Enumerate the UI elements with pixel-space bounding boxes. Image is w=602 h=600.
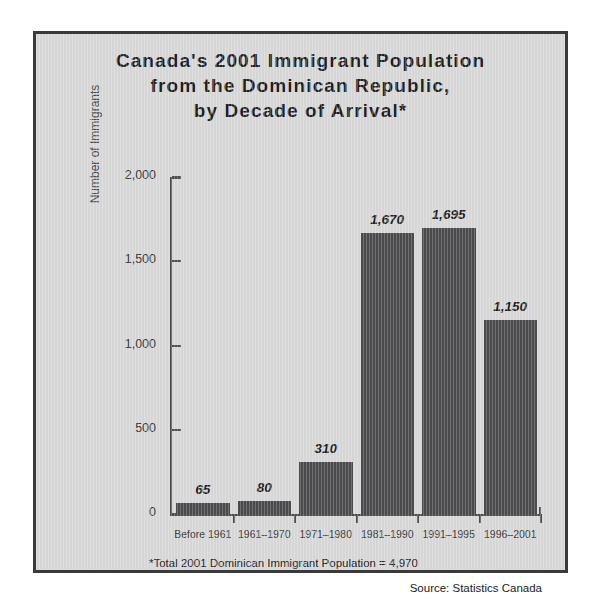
x-axis-tick-mark [479,514,481,523]
bar[interactable] [299,462,353,514]
x-axis-category-label: 1996–2001 [462,528,560,540]
y-axis-title: Number of Immigrants [88,54,102,234]
chart-panel: Canada's 2001 Immigrant Population from … [33,31,568,573]
bar-value-label: 310 [295,441,357,456]
bar[interactable] [484,320,538,514]
bar-value-label: 1,695 [418,207,480,222]
bar[interactable] [238,501,292,514]
chart-footnote: *Total 2001 Dominican Immigrant Populati… [149,557,418,569]
chart-title-line-2: from the Dominican Republic, [36,73,565,98]
bar-value-label: 65 [172,482,234,497]
x-axis-tick-mark [540,514,542,523]
chart-title-line-3: by Decade of Arrival* [36,98,565,123]
bar[interactable] [422,228,476,514]
chart-source: Source: Statistics Canada [410,582,542,594]
bar-group: 801961–1970 [234,177,296,514]
bar-group: 3101971–1980 [295,177,357,514]
chart-title: Canada's 2001 Immigrant Population from … [36,48,565,123]
y-axis-tick-label: 500 [135,421,156,435]
x-axis-tick-mark [417,514,419,523]
bar-series: 65Before 1961801961–19703101971–19801,67… [172,177,541,514]
bar[interactable] [361,233,415,514]
chart-title-line-1: Canada's 2001 Immigrant Population [36,48,565,73]
bar[interactable] [176,503,230,514]
y-axis-tick-label: 1,000 [125,337,156,351]
bar-group: 65Before 1961 [172,177,234,514]
x-axis-tick-mark [356,514,358,523]
y-axis-tick-label: 0 [149,505,156,519]
bar-value-label: 1,150 [480,299,542,314]
bar-group: 1,1501996–2001 [480,177,542,514]
y-axis-tick-label: 2,000 [125,168,156,182]
plot-area: 05001,0001,5002,000 65Before 1961801961–… [170,177,541,514]
bar-group: 1,6701981–1990 [357,177,419,514]
bar-group: 1,6951991–1995 [418,177,480,514]
x-axis-tick-mark [233,514,235,523]
y-axis-tick-label: 1,500 [125,252,156,266]
bar-value-label: 1,670 [357,212,419,227]
x-axis-tick-mark [294,514,296,523]
bar-value-label: 80 [234,480,296,495]
